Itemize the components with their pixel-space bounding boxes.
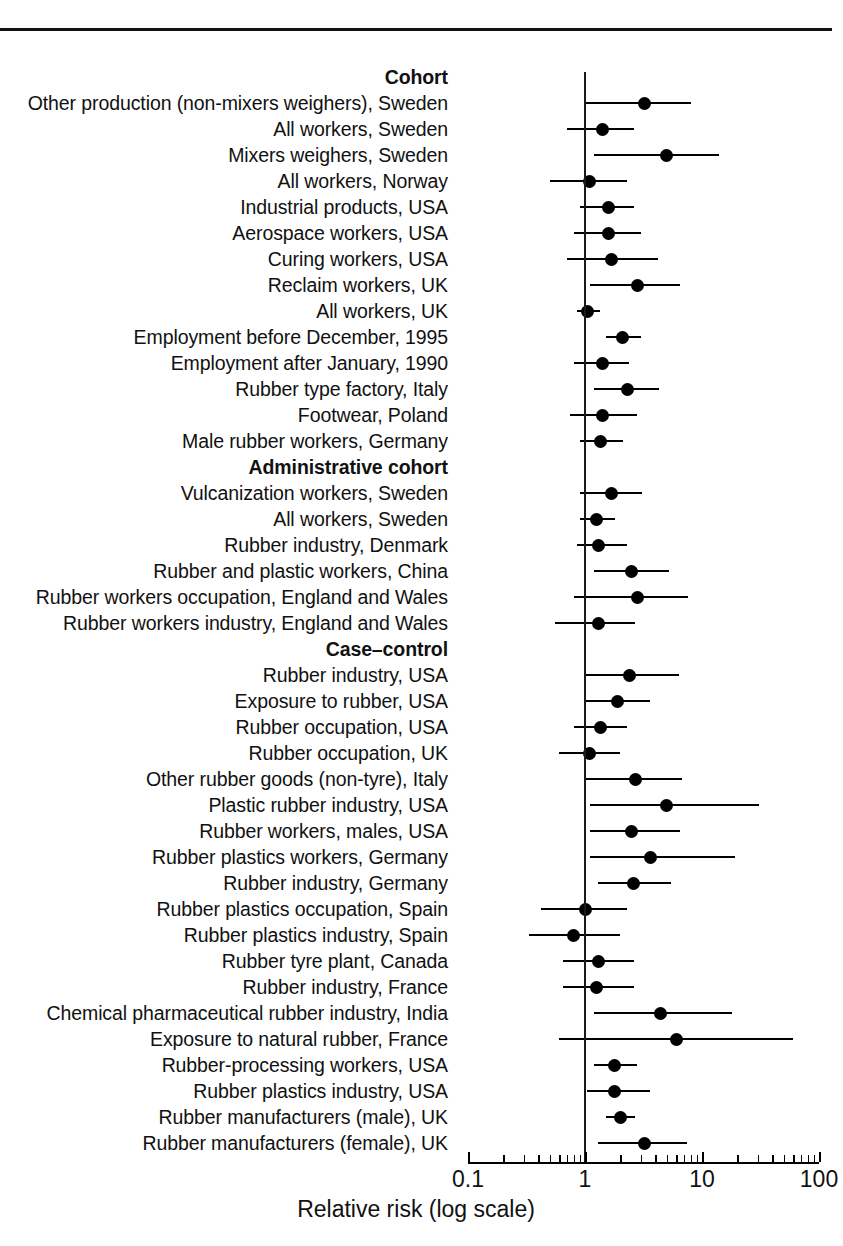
study-label: Rubber tyre plant, Canada <box>0 948 448 974</box>
x-axis-title: Relative risk (log scale) <box>0 1196 832 1223</box>
forest-plot-row: Aerospace workers, USA <box>0 220 832 246</box>
forest-plot-row: Reclaim workers, UK <box>0 272 832 298</box>
forest-plot-row: Rubber industry, Denmark <box>0 532 832 558</box>
x-axis-minor-tick <box>574 1155 576 1162</box>
forest-plot-row: Mixers weighers, Sweden <box>0 142 832 168</box>
point-estimate-marker <box>605 253 618 266</box>
study-label: All workers, Sweden <box>0 506 448 532</box>
x-axis-minor-tick <box>772 1155 774 1162</box>
point-estimate-marker <box>660 149 673 162</box>
x-axis-minor-tick <box>567 1155 569 1162</box>
point-estimate-marker <box>594 435 607 448</box>
x-axis-minor-tick <box>684 1155 686 1162</box>
x-axis-minor-tick <box>758 1155 760 1162</box>
x-axis-minor-tick <box>667 1155 669 1162</box>
forest-plot-row: Rubber manufacturers (female), UK <box>0 1130 832 1156</box>
point-estimate-marker <box>590 513 603 526</box>
forest-plot-row: Chemical pharmaceutical rubber industry,… <box>0 1000 832 1026</box>
point-estimate-marker <box>660 799 673 812</box>
x-axis-minor-tick <box>801 1155 803 1162</box>
point-estimate-marker <box>614 1111 627 1124</box>
point-estimate-marker <box>596 357 609 370</box>
study-label: Reclaim workers, UK <box>0 272 448 298</box>
study-label: Rubber type factory, Italy <box>0 376 448 402</box>
point-estimate-marker <box>629 773 642 786</box>
study-label: Rubber workers, males, USA <box>0 818 448 844</box>
study-label: Rubber industry, France <box>0 974 448 1000</box>
study-label: Footwear, Poland <box>0 402 448 428</box>
x-axis-minor-tick <box>641 1155 643 1162</box>
x-axis-major-tick <box>819 1152 821 1162</box>
confidence-interval-line <box>590 804 760 806</box>
forest-plot-group-heading: Administrative cohort <box>0 454 832 480</box>
forest-plot-row: Rubber type factory, Italy <box>0 376 832 402</box>
x-axis-minor-tick <box>793 1155 795 1162</box>
point-estimate-marker <box>594 721 607 734</box>
study-label: Plastic rubber industry, USA <box>0 792 448 818</box>
forest-plot-group-heading: Case–control <box>0 636 832 662</box>
study-label: Rubber industry, USA <box>0 662 448 688</box>
x-axis-minor-tick <box>580 1155 582 1162</box>
point-estimate-marker <box>590 981 603 994</box>
study-label: Rubber manufacturers (female), UK <box>0 1130 448 1156</box>
point-estimate-marker <box>625 565 638 578</box>
study-label: Rubber and plastic workers, China <box>0 558 448 584</box>
study-label: Male rubber workers, Germany <box>0 428 448 454</box>
study-label: Other production (non-mixers weighers), … <box>0 90 448 116</box>
x-axis-minor-tick <box>538 1155 540 1162</box>
forest-plot-row: Male rubber workers, Germany <box>0 428 832 454</box>
x-axis-minor-tick <box>503 1155 505 1162</box>
forest-plot-row: Exposure to natural rubber, France <box>0 1026 832 1052</box>
point-estimate-marker <box>567 929 580 942</box>
point-estimate-marker <box>596 123 609 136</box>
x-axis-major-tick <box>702 1152 704 1162</box>
study-label: Industrial products, USA <box>0 194 448 220</box>
x-axis-major-tick <box>585 1152 587 1162</box>
point-estimate-marker <box>581 305 594 318</box>
x-axis-minor-tick <box>808 1155 810 1162</box>
point-estimate-marker <box>592 955 605 968</box>
study-label: Rubber workers occupation, England and W… <box>0 584 448 610</box>
point-estimate-marker <box>627 877 640 890</box>
confidence-interval-line <box>590 856 735 858</box>
x-axis-minor-tick <box>737 1155 739 1162</box>
forest-plot-row: Rubber occupation, UK <box>0 740 832 766</box>
x-axis-tick-label: 100 <box>769 1166 843 1192</box>
study-label: Rubber plastics occupation, Spain <box>0 896 448 922</box>
forest-plot-row: Employment after January, 1990 <box>0 350 832 376</box>
x-axis-minor-tick <box>559 1155 561 1162</box>
forest-plot-row: Rubber plastics workers, Germany <box>0 844 832 870</box>
confidence-interval-line <box>594 154 719 156</box>
x-axis-minor-tick <box>697 1155 699 1162</box>
forest-plot-row: Rubber and plastic workers, China <box>0 558 832 584</box>
group-heading-label: Administrative cohort <box>0 454 448 480</box>
study-label: Chemical pharmaceutical rubber industry,… <box>0 1000 448 1026</box>
point-estimate-marker <box>638 1137 651 1150</box>
point-estimate-marker <box>602 227 615 240</box>
forest-plot-row: Rubber-processing workers, USA <box>0 1052 832 1078</box>
x-axis-minor-tick <box>676 1155 678 1162</box>
forest-plot-row: All workers, Norway <box>0 168 832 194</box>
forest-plot-row: All workers, Sweden <box>0 506 832 532</box>
study-label: Other rubber goods (non-tyre), Italy <box>0 766 448 792</box>
point-estimate-marker <box>602 201 615 214</box>
forest-plot-row: Footwear, Poland <box>0 402 832 428</box>
x-axis-tick-label: 0.1 <box>418 1166 518 1192</box>
study-label: Employment after January, 1990 <box>0 350 448 376</box>
x-axis-minor-tick <box>524 1155 526 1162</box>
point-estimate-marker <box>611 695 624 708</box>
point-estimate-marker <box>631 279 644 292</box>
forest-plot-row: Rubber workers, males, USA <box>0 818 832 844</box>
x-axis-tick-label: 10 <box>652 1166 752 1192</box>
study-label: Rubber plastics workers, Germany <box>0 844 448 870</box>
study-label: Rubber occupation, USA <box>0 714 448 740</box>
point-estimate-marker <box>670 1033 683 1046</box>
study-label: Exposure to natural rubber, France <box>0 1026 448 1052</box>
point-estimate-marker <box>644 851 657 864</box>
point-estimate-marker <box>638 97 651 110</box>
study-label: All workers, Norway <box>0 168 448 194</box>
study-label: Vulcanization workers, Sweden <box>0 480 448 506</box>
study-label: Rubber plastics industry, USA <box>0 1078 448 1104</box>
study-label: All workers, UK <box>0 298 448 324</box>
